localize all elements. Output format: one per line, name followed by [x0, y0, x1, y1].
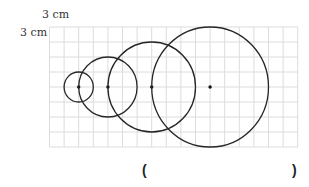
- circle-diagram: [0, 0, 309, 187]
- answer-close-paren: ): [292, 163, 297, 177]
- answer-blank[interactable]: [150, 163, 290, 179]
- grid-paper: [50, 27, 298, 147]
- answer-open-paren: (: [142, 163, 147, 177]
- circle-center-dot: [208, 85, 211, 88]
